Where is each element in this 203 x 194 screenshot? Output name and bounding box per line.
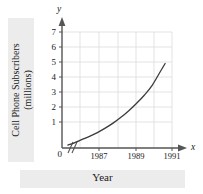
y-tick-label-4: 4 <box>44 73 56 82</box>
y-axis-letter: y <box>57 4 61 14</box>
x-tick-label-1987: 1987 <box>84 152 114 161</box>
y-axis <box>59 17 66 148</box>
y-tick-label-5: 5 <box>44 58 56 67</box>
x-tick-label-1989: 1989 <box>121 152 151 161</box>
x-axis-title: Year <box>20 172 185 183</box>
y-tick-label-3: 3 <box>44 88 56 97</box>
horizontal-gridlines <box>62 32 172 122</box>
chart-figure: Cell Phone Subscribers (millions) <box>0 0 203 194</box>
x-axis-letter: x <box>191 142 195 152</box>
vertical-gridlines <box>80 32 172 148</box>
y-tick-label-7: 7 <box>44 28 56 37</box>
y-tick-label-2: 2 <box>44 103 56 112</box>
x-tick-label-1991: 1991 <box>157 152 187 161</box>
y-tick-label-0: 0 <box>51 150 62 159</box>
y-tick-label-6: 6 <box>44 43 56 52</box>
data-series-curve <box>68 63 165 145</box>
y-tick-label-1: 1 <box>44 118 56 127</box>
plot-area <box>0 0 203 194</box>
